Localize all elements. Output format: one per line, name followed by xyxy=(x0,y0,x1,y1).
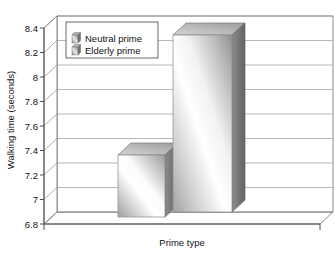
y-tick-label: 8.2 xyxy=(25,47,38,58)
y-tick-label: 7 xyxy=(33,194,38,205)
bar-neutral-prime[interactable] xyxy=(118,143,178,217)
legend-swatch-icon xyxy=(72,33,81,44)
legend-label-neutral-prime: Neutral prime xyxy=(85,33,142,44)
bar-chart-svg: 8.4 8.2 8 7.8 7.6 7.4 7.2 7 6.8 Walking … xyxy=(0,0,335,255)
y-tick-label: 7.2 xyxy=(25,170,38,181)
bar-elderly-prime[interactable] xyxy=(173,23,245,212)
y-tick-label: 7.6 xyxy=(25,121,38,132)
y-tick-label: 8 xyxy=(33,72,38,83)
plot-floor xyxy=(44,212,333,224)
legend: Neutral prime Elderly prime xyxy=(66,22,158,58)
x-axis-title: Prime type xyxy=(159,237,204,248)
y-tick-label: 7.4 xyxy=(25,145,38,156)
y-axis-tick-labels: 8.4 8.2 8 7.8 7.6 7.4 7.2 7 6.8 xyxy=(25,23,38,230)
legend-label-elderly-prime: Elderly prime xyxy=(85,45,140,56)
y-tick-label: 6.8 xyxy=(25,219,38,230)
plot-left-wall xyxy=(44,16,57,224)
chart-container: 8.4 8.2 8 7.8 7.6 7.4 7.2 7 6.8 Walking … xyxy=(0,0,335,255)
y-tick-label: 7.8 xyxy=(25,96,38,107)
y-axis-ticks xyxy=(40,28,44,224)
y-axis-title: Walking time (seconds) xyxy=(5,71,16,169)
y-tick-label: 8.4 xyxy=(25,23,38,34)
legend-swatch-icon xyxy=(72,45,81,56)
